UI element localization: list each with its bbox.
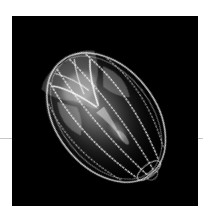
page-canvas	[0, 0, 203, 220]
comb-jelly-illustration	[12, 16, 198, 206]
comb-jelly-photo	[12, 16, 198, 206]
